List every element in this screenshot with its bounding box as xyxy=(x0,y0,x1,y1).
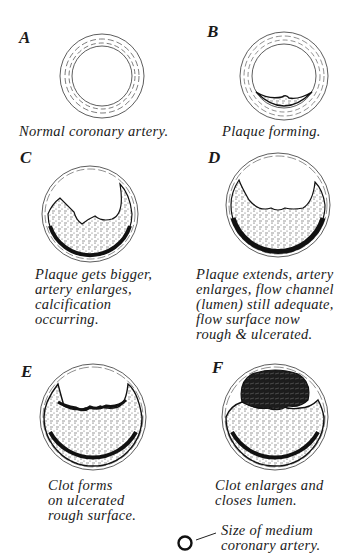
caption-c: Plaque gets bigger, artery enlarges, cal… xyxy=(35,267,152,327)
panel-label-b: B xyxy=(207,22,218,42)
caption-e: Clot forms on ulcerated rough surface. xyxy=(48,478,136,523)
caption-b: Plaque forming. xyxy=(222,124,321,139)
panel-label-a: A xyxy=(19,28,30,48)
caption-a: Normal coronary artery. xyxy=(19,124,168,139)
caption-d: Plaque extends, artery enlarges, flow ch… xyxy=(196,267,334,342)
artery-plaque-extends-illustration xyxy=(223,150,333,260)
caption-f: Clot enlarges and closes lumen. xyxy=(215,478,323,508)
artery-clot-closes-lumen-illustration xyxy=(220,362,330,472)
artery-clot-forms-illustration xyxy=(38,362,148,472)
panel-label-e: E xyxy=(21,362,32,382)
artery-plaque-bigger-illustration xyxy=(40,164,140,264)
artery-normal-illustration xyxy=(52,24,152,124)
panel-label-d: D xyxy=(208,148,220,168)
artery-plaque-forming-illustration xyxy=(234,24,334,124)
panel-label-c: C xyxy=(20,148,31,168)
legend-text: Size of medium coronary artery. xyxy=(221,523,320,553)
